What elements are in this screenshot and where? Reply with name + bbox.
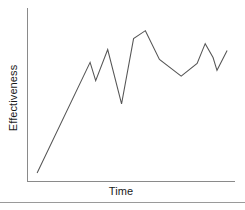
y-axis-label: Effectiveness [8,43,19,153]
x-axis-label: Time [93,186,149,197]
data-series-polyline [37,31,227,173]
chart-figure: Effectiveness Time [0,0,245,210]
effectiveness-vs-time-line-chart [0,0,245,210]
